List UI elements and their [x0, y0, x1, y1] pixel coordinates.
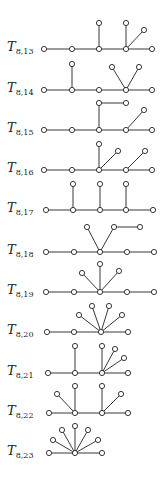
tree-vertex [69, 87, 74, 92]
tree-label-subscript: 8,19 [16, 290, 34, 299]
tree-vertex [96, 46, 101, 51]
tree-vertex [46, 450, 51, 455]
tree-label: T8,21 [7, 364, 33, 380]
tree-vertex [97, 249, 102, 254]
tree-vertex [99, 370, 104, 375]
tree-vertex [136, 64, 141, 69]
tree-vertex [96, 127, 101, 132]
tree-vertex [125, 329, 130, 334]
tree-vertex [150, 207, 155, 212]
tree-label-letter: T [7, 242, 16, 257]
tree-vertex [71, 289, 76, 294]
tree-label-subscript: 8,21 [16, 371, 34, 380]
tree-edge [101, 306, 109, 332]
tree-vertex [98, 329, 103, 334]
tree-vertex [119, 312, 124, 317]
tree-label-subscript: 8,17 [16, 208, 34, 217]
tree-label-letter: T [7, 363, 16, 378]
tree-vertex [99, 383, 104, 388]
tree-label: T8,17 [7, 201, 33, 217]
tree-vertex [72, 343, 77, 348]
tree-vertex [123, 20, 128, 25]
tree-vertex [79, 270, 84, 275]
tree-label-letter: T [7, 80, 16, 95]
tree-vertex [137, 224, 142, 229]
tree-vertex [121, 355, 126, 360]
tree-vertex [99, 450, 104, 455]
tree-edge [102, 394, 121, 413]
tree-label-letter: T [7, 322, 16, 337]
tree-8-20 [44, 303, 130, 334]
tree-8-22 [46, 383, 130, 415]
tree-vertex [96, 100, 101, 105]
tree-vertex [111, 224, 116, 229]
tree-vertex [69, 46, 74, 51]
tree-label: T8,22 [7, 404, 33, 420]
tree-vertex [50, 437, 55, 442]
tree-label: T8,16 [7, 161, 33, 177]
tree-vertex [118, 391, 123, 396]
tree-vertex [151, 289, 156, 294]
tree-vertex [59, 427, 64, 432]
tree-vertex [125, 370, 130, 375]
tree-vertex [109, 64, 114, 69]
tree-label-letter: T [7, 120, 16, 135]
tree-vertex [116, 268, 121, 273]
tree-vertex [123, 127, 128, 132]
tree-label-subscript: 8,13 [16, 47, 34, 56]
tree-label-subscript: 8,18 [16, 250, 34, 259]
tree-label: T8,18 [7, 243, 33, 259]
tree-vertex [41, 87, 46, 92]
tree-label-subscript: 8,22 [16, 411, 34, 420]
tree-vertex [72, 450, 77, 455]
tree-vertex [89, 303, 94, 308]
tree-label: T8,15 [7, 121, 33, 137]
tree-vertex [41, 127, 46, 132]
tree-edge [82, 273, 100, 292]
tree-vertex [124, 289, 129, 294]
tree-label-subscript: 8,16 [16, 168, 34, 177]
tree-vertex [72, 383, 77, 388]
tree-edge [100, 227, 114, 252]
tree-vertex [123, 100, 128, 105]
tree-vertex [99, 410, 104, 415]
tree-vertex [85, 427, 90, 432]
tree-label-letter: T [7, 39, 16, 54]
tree-vertex [72, 370, 77, 375]
tree-vertex [43, 289, 48, 294]
tree-edge [99, 151, 118, 170]
tree-vertex [149, 127, 154, 132]
tree-edge [87, 227, 100, 252]
tree-vertex [112, 346, 117, 351]
tree-vertex [72, 410, 77, 415]
tree-label: T8,13 [7, 40, 33, 56]
tree-vertex [96, 87, 101, 92]
tree-vertex [124, 249, 129, 254]
tree-vertex [97, 181, 102, 186]
tree-vertex [149, 167, 154, 172]
tree-8-21 [45, 343, 130, 375]
tree-vertex [44, 329, 49, 334]
tree-edge [126, 30, 144, 49]
tree-vertex [99, 343, 104, 348]
tree-vertex [149, 46, 154, 51]
tree-vertex [96, 20, 101, 25]
tree-edge [102, 349, 115, 373]
tree-8-16 [41, 141, 154, 172]
tree-vertex [97, 207, 102, 212]
tree-vertex [106, 303, 111, 308]
tree-vertex [54, 391, 59, 396]
tree-8-15 [41, 100, 154, 132]
tree-edge [101, 315, 122, 332]
tree-label-letter: T [7, 403, 16, 418]
tree-vertex [142, 148, 147, 153]
tree-label: T8,14 [7, 81, 33, 97]
tree-label: T8,20 [7, 323, 33, 339]
tree-label-subscript: 8,23 [16, 451, 34, 460]
tree-vertex [43, 249, 48, 254]
tree-vertex [149, 87, 154, 92]
tree-vertex [96, 141, 101, 146]
tree-vertex [123, 46, 128, 51]
tree-8-14 [41, 61, 154, 92]
tree-vertex [72, 423, 77, 428]
